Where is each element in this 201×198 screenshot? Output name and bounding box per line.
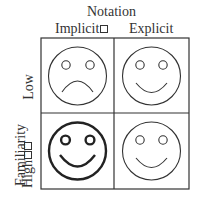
- quadrant-grid: [0, 0, 201, 198]
- happy-face-icon: [123, 47, 181, 105]
- happy-face-icon: [49, 123, 106, 180]
- sad-face-icon: [49, 47, 107, 105]
- happy-face-icon: [123, 122, 181, 180]
